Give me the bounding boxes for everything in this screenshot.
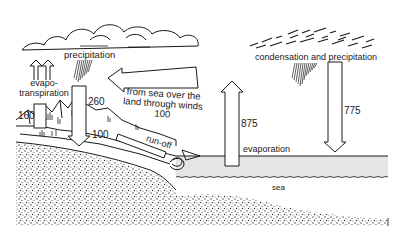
evapotranspiration-column [34, 104, 46, 128]
evaporation-label: evaporation [243, 144, 290, 154]
runoff-value: 100 [92, 130, 109, 140]
evapotranspiration-value: 160 [18, 111, 35, 121]
evapotranspiration-arrows [30, 60, 54, 80]
wind-transport-label: from sea over the land through winds 100 [117, 86, 209, 122]
land-cloud [22, 25, 198, 50]
ground [16, 143, 178, 226]
land-rain [74, 60, 92, 82]
evapotranspiration-label: evapo- transpiration [15, 78, 73, 98]
land-precipitation-value: 260 [88, 97, 105, 107]
sea-cloud [250, 28, 374, 48]
sea-surface [176, 156, 388, 177]
seabed [178, 194, 388, 226]
precipitation-label: precipitation [64, 50, 115, 60]
sea-precipitation-value: 775 [344, 106, 361, 116]
condensation-label: condensation and precipitation [255, 52, 377, 62]
sea-evaporation-arrow [221, 81, 243, 166]
sea-rain [292, 63, 317, 86]
sea-evaporation-value: 875 [241, 119, 258, 129]
sea-precipitation-arrow [324, 62, 346, 152]
sea-label: sea [272, 183, 285, 193]
evapotranspiration-label-line1: evapo- [15, 78, 73, 88]
evapotranspiration-label-line2: transpiration [15, 88, 73, 98]
